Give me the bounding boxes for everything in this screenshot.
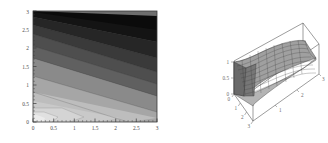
surface-x-tick-2: 2	[241, 114, 244, 120]
surface-y-tick-1: 1	[279, 107, 282, 113]
contour-x-tick-6: 3	[156, 125, 159, 131]
contour-x-tick-0: 0	[32, 125, 35, 131]
surface-y-tick-2: 2	[301, 92, 304, 98]
surface-z-tick-0_5: 0.5	[223, 75, 230, 81]
contour-x-tick-2: 1	[73, 125, 76, 131]
contour-x-tick-5: 2.5	[133, 125, 140, 131]
contour-y-tick-6: 3	[26, 9, 29, 15]
contour-y-tick-1: 0.5	[22, 101, 29, 107]
contour-y-tick-5: 2.5	[22, 27, 29, 33]
surface-y-tick-3: 3	[322, 76, 325, 82]
contour-x-tick-3: 1.5	[92, 125, 99, 131]
surface-plot-svg: 1 0.5 0 0 1 2 3	[164, 0, 328, 143]
contour-y-tick-labels: 0 0.5 1 1.5 2 2.5 3	[22, 9, 29, 126]
surface-z-tick-1: 1	[226, 59, 229, 65]
surface-x-tick-3: 3	[247, 123, 250, 129]
contour-x-tick-1: 0.5	[50, 125, 57, 131]
contour-plot-svg: 0 0.5 1 1.5 2 2.5 3 0 0.5 1 1.5 2 2.5 3	[0, 0, 164, 143]
surface-mesh	[234, 40, 316, 106]
figure-container: 0 0.5 1 1.5 2 2.5 3 0 0.5 1 1.5 2 2.5 3	[0, 0, 328, 143]
surface-plot: 1 0.5 0 0 1 2 3	[164, 0, 328, 143]
surface-x-tick-0: 0	[227, 96, 230, 102]
surface-x-tick-1: 1	[234, 105, 237, 111]
contour-plot: 0 0.5 1 1.5 2 2.5 3 0 0.5 1 1.5 2 2.5 3	[0, 0, 164, 143]
contour-y-tick-2: 1	[26, 82, 29, 88]
contour-y-tick-4: 2	[26, 45, 29, 51]
contour-y-tick-0: 0	[26, 119, 29, 125]
contour-field	[33, 11, 157, 122]
contour-y-tick-3: 1.5	[22, 64, 29, 70]
contour-x-tick-4: 2	[114, 125, 117, 131]
surface-z-axis: 1 0.5 0	[223, 59, 234, 97]
contour-x-tick-labels: 0 0.5 1 1.5 2 2.5 3	[32, 125, 159, 131]
